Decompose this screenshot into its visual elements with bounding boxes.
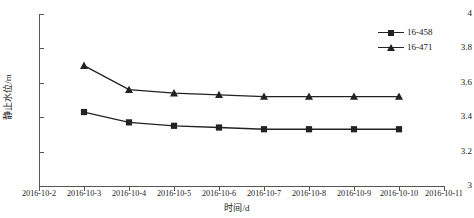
data-point-marker [306, 126, 312, 132]
data-point-marker [171, 123, 177, 129]
data-point-marker [351, 126, 357, 132]
legend-item-label: 16-458 [407, 27, 433, 38]
data-point-marker [126, 119, 132, 125]
chart-container: 33.23.43.63.84 2016-10-22016-10-32016-10… [0, 0, 474, 218]
data-point-marker [261, 126, 267, 132]
chart-legend: 16-458 16-471 [378, 26, 433, 56]
series-16-471 [80, 62, 403, 100]
square-marker-icon [378, 27, 404, 38]
data-point-marker [81, 109, 87, 115]
data-point-marker [80, 62, 88, 69]
data-point-marker [216, 124, 222, 130]
legend-item-label: 16-471 [407, 42, 433, 53]
legend-item-0[interactable]: 16-458 [378, 26, 433, 39]
legend-item-1[interactable]: 16-471 [378, 41, 433, 54]
triangle-marker-icon [378, 42, 404, 53]
series-16-458 [81, 109, 402, 132]
data-point-marker [396, 126, 402, 132]
